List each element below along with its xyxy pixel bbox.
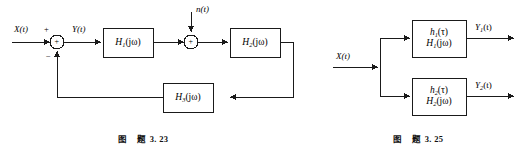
summing-junction-1-input-sign: + [44, 25, 49, 34]
branch-lower-label: h2(τ) H2(jω) [426, 85, 451, 109]
forward-block-1-label: H1(jω) [115, 38, 140, 48]
branch-lower-transfer-symbol: H [426, 97, 433, 107]
branch-lower-impulse: h2(τ) [430, 85, 448, 95]
branch-lower-impulse-arg: (τ) [438, 85, 448, 95]
branch-upper-impulse-arg: (τ) [438, 27, 448, 37]
figure-2-caption-number: 3. 25 [425, 134, 444, 144]
branch-lower-output-arg: (t) [483, 80, 492, 90]
input-signal-label: X(t) [14, 25, 28, 34]
forward-block-2-symbol: H [242, 37, 249, 47]
branch-upper-transfer-arg: (jω) [436, 39, 451, 49]
branch-upper-label: h1(τ) H1(jω) [426, 27, 451, 51]
forward-block-2-label: H2(jω) [242, 38, 267, 48]
branch-upper-transfer: H1(jω) [426, 39, 451, 49]
branch-upper-impulse: h1(τ) [430, 27, 448, 37]
figure-parallel-system: X(t) h1(τ) H1(jω) h2(τ) H2(jω) Y1(t) Y2(… [300, 0, 525, 153]
branch-lower-output-label: Y2(t) [475, 81, 492, 91]
figure-feedback-system: X(t) + + − Y(t) n(t) + H1(jω) H2(jω) H3(… [0, 0, 300, 153]
feedback-block-arg: (jω) [185, 92, 200, 102]
figure-2-caption-prefix: 图 [393, 134, 402, 144]
figure-1-caption-number: 3. 23 [150, 134, 169, 144]
figure-1-caption: 图 题 3. 23 [118, 132, 168, 144]
branch-lower-transfer: H2(jω) [426, 97, 451, 107]
feedback-system-canvas [0, 0, 300, 153]
branch-upper-transfer-symbol: H [426, 39, 433, 49]
noise-signal-label: n(t) [196, 5, 209, 14]
branch-upper-output-arg: (t) [483, 22, 492, 32]
branch-upper-output-label: Y1(t) [475, 23, 492, 33]
summing-junction-2-inner-sign: + [189, 38, 194, 46]
branch-lower-transfer-arg: (jω) [436, 97, 451, 107]
wire-feedback-return [57, 51, 163, 97]
forward-block-2-arg: (jω) [252, 37, 267, 47]
figure-sheet: X(t) + + − Y(t) n(t) + H1(jω) H2(jω) H3(… [0, 0, 525, 153]
forward-block-1-arg: (jω) [125, 37, 140, 47]
intermediate-signal-label: Y(t) [72, 25, 86, 34]
feedback-block-symbol: H [175, 92, 182, 102]
figure-2-caption-label: 题 [412, 134, 421, 144]
parallel-input-signal-label: X(t) [336, 52, 350, 61]
summing-junction-1-inner-sign: + [55, 38, 60, 46]
feedback-block-label: H3(jω) [175, 93, 200, 103]
figure-1-caption-label: 题 [137, 134, 146, 144]
forward-block-1-symbol: H [115, 37, 122, 47]
summing-junction-1-feedback-sign: − [46, 52, 51, 61]
figure-2-caption: 图 题 3. 25 [393, 132, 443, 144]
figure-1-caption-prefix: 图 [118, 134, 127, 144]
